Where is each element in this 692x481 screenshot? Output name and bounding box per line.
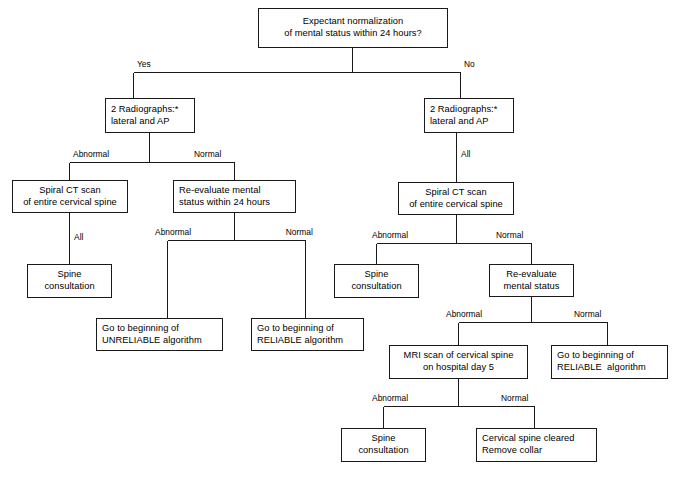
edge-label-no: No [464,59,475,69]
node-line: RELIABLE algorithm [257,335,343,347]
node-line: Spine [57,269,81,281]
node-line: UNRELIABLE algorithm [102,335,202,347]
node-line: of entire cervical spine [23,197,117,209]
edge-label-abnormal-rad-left: Abnormal [73,149,109,159]
node-line: lateral and AP [111,116,170,128]
edge-label-abnormal-mri: Abnormal [372,393,408,403]
node-line: Go to beginning of [257,323,334,335]
node-spiral-ct-left: Spiral CT scan of entire cervical spine [12,180,128,213]
node-go-to-reliable-algorithm-right: Go to beginning of RELIABLE algorithm [551,345,668,379]
node-spine-consultation-middle: Spine consultation [334,264,419,298]
node-radiographs-right: 2 Radiographs:* lateral and AP [424,98,514,133]
edge-label-yes: Yes [137,59,151,69]
node-line: Spiral CT scan [425,187,487,199]
edge-label-abnormal-reeval-ms: Abnormal [446,309,482,319]
node-line: 2 Radiographs:* [430,104,497,116]
node-line: Re-evaluate [506,269,557,281]
node-line: Spine [371,433,395,445]
flowchart-connector-lines [0,0,692,481]
node-line: status within 24 hours [179,197,270,209]
node-line: Go to beginning of [557,350,634,362]
node-line: mental status [504,281,560,293]
edge-label-normal-ct-right: Normal [496,230,523,240]
node-line: Re-evaluate mental [179,185,261,197]
node-expectant-normalization: Expectant normalization of mental status… [258,8,448,48]
node-spine-consultation-bottom: Spine consultation [341,428,426,462]
node-cervical-spine-cleared: Cervical spine cleared Remove collar [476,428,597,462]
node-line: consultation [358,445,408,457]
edge-label-abnormal-ct-right: Abnormal [372,230,408,240]
node-line: Expectant normalization [303,16,403,28]
node-mri-scan-cervical-spine: MRI scan of cervical spine on hospital d… [389,345,528,379]
node-go-to-unreliable-algorithm: Go to beginning of UNRELIABLE algorithm [96,318,223,351]
node-line: consultation [44,281,94,293]
node-line: of mental status within 24 hours? [284,28,422,40]
node-line: MRI scan of cervical spine [404,350,514,362]
node-spine-consultation-left: Spine consultation [27,264,112,298]
node-line: Remove collar [482,445,542,457]
edge-label-normal-rad-left: Normal [194,149,221,159]
edge-label-all-ct-left: All [74,232,83,242]
node-line: on hospital day 5 [423,362,494,374]
flowchart-canvas: Expectant normalization of mental status… [0,0,692,481]
node-line: lateral and AP [430,116,489,128]
node-line: of entire cervical spine [409,199,503,211]
edge-label-normal-reeval-24: Normal [273,227,313,237]
node-go-to-reliable-algorithm-left: Go to beginning of RELIABLE algorithm [251,318,364,351]
edge-label-abnormal-reeval-24: Abnormal [155,227,191,237]
node-reevaluate-mental-status-24-hours: Re-evaluate mental status within 24 hour… [173,180,296,213]
node-radiographs-left: 2 Radiographs:* lateral and AP [105,98,195,133]
node-line: RELIABLE algorithm [557,362,646,374]
node-line: Go to beginning of [102,323,179,335]
node-line: Spine [364,269,388,281]
edge-label-normal-reeval-ms: Normal [574,309,601,319]
node-line: 2 Radiographs:* [111,104,178,116]
node-line: consultation [351,281,401,293]
edge-label-normal-mri: Normal [501,393,528,403]
node-reevaluate-mental-status: Re-evaluate mental status [489,264,574,297]
node-spiral-ct-right: Spiral CT scan of entire cervical spine [398,182,514,215]
edge-label-all-rad-right: All [461,149,470,159]
node-line: Spiral CT scan [39,185,101,197]
node-line: Cervical spine cleared [482,433,575,445]
